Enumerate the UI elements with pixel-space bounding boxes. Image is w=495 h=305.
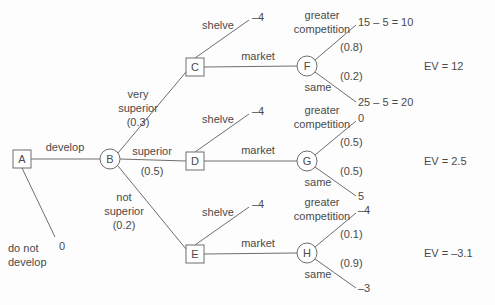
edge-c-market [204, 66, 297, 67]
prob-superior: (0.5) [141, 165, 164, 177]
edge-label-same-f: same [305, 81, 332, 93]
prob-same-g: (0.5) [340, 165, 363, 177]
decision-tree-canvas: A B C D E F G H develop do not develop 0… [0, 0, 495, 305]
edge-label-very-superior-line2: superior [118, 102, 158, 114]
node-c-label: C [191, 61, 199, 73]
edge-label-same-h: same [305, 268, 332, 280]
edge-label-do-not-develop-line1: do not [8, 242, 39, 254]
edge-label-greater-competition-h-line2: competition [294, 210, 350, 222]
edge-label-market-e: market [241, 237, 275, 249]
payoff-same-h: –3 [358, 282, 370, 294]
edge-label-market-d: market [241, 144, 275, 156]
edge-label-same-g: same [305, 176, 332, 188]
edge-label-market-c: market [241, 50, 275, 62]
edge-label-very-superior-line1: very [128, 88, 149, 100]
edge-label-develop: develop [46, 141, 85, 153]
prob-same-f: (0.2) [340, 70, 363, 82]
payoff-shelve-c: –4 [252, 11, 264, 23]
edge-a-do-not-develop [22, 168, 55, 237]
edge-label-shelve-d: shelve [202, 113, 234, 125]
edge-label-not-superior-line2: superior [104, 205, 144, 217]
edge-label-greater-competition-f-line2: competition [294, 23, 350, 35]
prob-same-h: (0.9) [340, 257, 363, 269]
edge-label-shelve-e: shelve [202, 206, 234, 218]
payoff-greater-competition-g: 0 [358, 112, 364, 124]
node-h-label: H [303, 247, 311, 259]
edge-label-do-not-develop-line2: develop [8, 256, 47, 268]
payoff-greater-competition-f: 15 – 5 = 10 [358, 16, 413, 28]
prob-greater-competition-f: (0.8) [340, 41, 363, 53]
payoff-same-f: 25 – 5 = 20 [358, 96, 413, 108]
payoff-greater-competition-h: –4 [358, 204, 370, 216]
node-d-label: D [191, 155, 199, 167]
node-a-label: A [18, 153, 26, 165]
node-g-label: G [303, 155, 312, 167]
edge-label-greater-competition-h-line1: greater [305, 196, 340, 208]
prob-greater-competition-h: (0.1) [340, 228, 363, 240]
prob-very-superior: (0.3) [127, 116, 150, 128]
ev-branch-e: EV = –3.1 [424, 247, 473, 259]
prob-greater-competition-g: (0.5) [340, 136, 363, 148]
ev-branch-c: EV = 12 [424, 60, 463, 72]
edge-label-shelve-c: shelve [202, 19, 234, 31]
edge-label-greater-competition-g-line2: competition [294, 118, 350, 130]
node-f-label: F [304, 60, 311, 72]
prob-not-superior: (0.2) [113, 219, 136, 231]
edge-label-greater-competition-f-line1: greater [305, 9, 340, 21]
node-e-label: E [191, 248, 198, 260]
edge-b-to-d [120, 159, 186, 161]
decision-tree-diagram: A B C D E F G H develop do not develop 0… [0, 0, 495, 305]
edge-e-market [204, 253, 297, 254]
payoff-shelve-d: –4 [252, 105, 264, 117]
node-b-label: B [106, 153, 113, 165]
edge-label-not-superior-line1: not [116, 191, 131, 203]
edge-label-superior: superior [132, 145, 172, 157]
edge-label-greater-competition-g-line1: greater [305, 104, 340, 116]
ev-branch-d: EV = 2.5 [424, 155, 467, 167]
payoff-do-not-develop: 0 [59, 240, 65, 252]
payoff-shelve-e: –4 [252, 198, 264, 210]
payoff-same-g: 5 [358, 190, 364, 202]
